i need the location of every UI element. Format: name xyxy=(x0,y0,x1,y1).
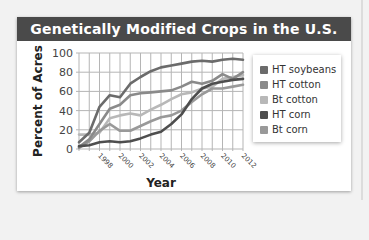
y-axis-label: Percent of Acres xyxy=(31,45,45,157)
x-tick-label: 2000 xyxy=(117,152,135,170)
x-tick-label: 2002 xyxy=(137,152,155,170)
legend-label: Bt cotton xyxy=(272,94,318,105)
y-tick-label: 40 xyxy=(59,105,73,118)
x-axis-label: Year xyxy=(145,176,176,190)
legend-swatch xyxy=(260,111,268,119)
x-tick-label: 2006 xyxy=(178,152,197,171)
y-tick-label: 60 xyxy=(59,85,73,98)
legend-item: Bt cotton xyxy=(260,92,341,107)
x-tick-label: 2010 xyxy=(219,152,237,170)
legend-item: Bt corn xyxy=(260,122,341,137)
legend-swatch xyxy=(260,96,268,104)
y-tick-label: 100 xyxy=(52,47,73,60)
chart-legend: HT soybeansHT cottonBt cottonHT cornBt c… xyxy=(253,55,341,142)
x-tick-label: 2008 xyxy=(199,152,217,170)
legend-swatch xyxy=(260,66,268,74)
y-tick-label: 20 xyxy=(59,124,73,137)
legend-item: HT soybeans xyxy=(260,62,341,77)
legend-item: HT corn xyxy=(260,107,341,122)
x-tick-label: 2012 xyxy=(240,152,258,170)
x-tick-label: 1998 xyxy=(96,152,114,170)
x-tick-label: 2004 xyxy=(158,152,177,171)
legend-swatch xyxy=(260,126,268,134)
legend-label: HT soybeans xyxy=(272,64,336,75)
legend-label: Bt corn xyxy=(272,124,308,135)
y-tick-label: 0 xyxy=(66,143,73,156)
legend-label: HT cotton xyxy=(272,79,321,90)
legend-label: HT corn xyxy=(272,109,311,120)
legend-item: HT cotton xyxy=(260,77,341,92)
legend-swatch xyxy=(260,81,268,89)
y-tick-label: 80 xyxy=(59,66,73,79)
